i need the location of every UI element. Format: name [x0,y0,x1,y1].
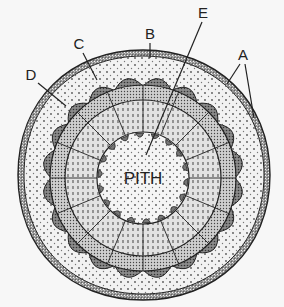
label-b: B [145,25,155,42]
pith: PITH [97,132,189,224]
label-d: D [26,66,37,83]
label-e: E [198,4,208,21]
stem-cross-section-diagram: PITH A B C D E [0,0,284,307]
label-c: C [74,35,85,52]
label-a: A [238,46,248,63]
pith-label: PITH [124,169,163,188]
